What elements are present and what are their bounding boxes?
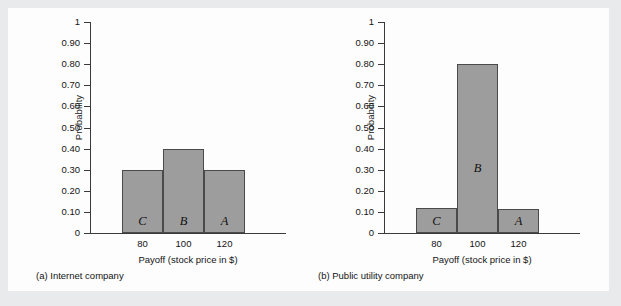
y-tick: 0.20 bbox=[378, 191, 384, 192]
y-tick-label: 0.10 bbox=[62, 206, 81, 217]
y-tick-label: 0.70 bbox=[62, 79, 81, 90]
bar-label: C bbox=[123, 214, 162, 229]
y-tick-label: 0.30 bbox=[62, 164, 81, 175]
bar: C bbox=[122, 170, 163, 233]
x-tick-label: 120 bbox=[499, 238, 539, 249]
bar-label: B bbox=[458, 161, 497, 176]
x-tick-label: 120 bbox=[205, 238, 245, 249]
y-tick-label: 0 bbox=[75, 227, 80, 238]
y-tick-label: 0.20 bbox=[356, 185, 375, 196]
bar: B bbox=[163, 149, 204, 233]
y-tick-label: 0.40 bbox=[62, 143, 81, 154]
y-tick-label: 0.20 bbox=[62, 185, 81, 196]
y-tick: 0.50 bbox=[378, 128, 384, 129]
bar-label: A bbox=[499, 214, 538, 229]
panel-caption-a: (a) Internet company bbox=[36, 270, 124, 281]
y-tick: 1 bbox=[378, 22, 384, 23]
y-tick-label: 0.80 bbox=[356, 58, 375, 69]
y-axis-label: Probability bbox=[73, 58, 84, 178]
chart-panel-internet-company: Probability 00.100.200.300.400.500.600.7… bbox=[16, 8, 316, 291]
x-axis-label: Payoff (stock price in $) bbox=[384, 254, 580, 265]
y-tick-label: 0.90 bbox=[356, 37, 375, 48]
y-tick: 1 bbox=[84, 22, 90, 23]
y-tick: 0.90 bbox=[378, 43, 384, 44]
y-tick: 0.40 bbox=[378, 149, 384, 150]
plot-area-a: 00.100.200.300.400.500.600.700.800.901 C… bbox=[90, 22, 286, 233]
y-tick-label: 0.90 bbox=[62, 37, 81, 48]
bar: B bbox=[457, 64, 498, 233]
y-tick-label: 0.60 bbox=[62, 100, 81, 111]
y-tick: 0.60 bbox=[378, 106, 384, 107]
y-tick-label: 1 bbox=[369, 16, 374, 27]
x-tick-label: 100 bbox=[458, 238, 498, 249]
y-tick: 0 bbox=[378, 233, 384, 234]
x-tick-label: 80 bbox=[123, 238, 163, 249]
bar: C bbox=[416, 208, 457, 233]
bar-label: B bbox=[164, 214, 203, 229]
y-tick-label: 0.50 bbox=[62, 122, 81, 133]
y-tick: 0.60 bbox=[84, 106, 90, 107]
x-axis-line bbox=[90, 233, 286, 234]
y-tick-label: 0.40 bbox=[356, 143, 375, 154]
x-axis-line bbox=[384, 233, 580, 234]
y-tick-label: 0.50 bbox=[356, 122, 375, 133]
panel-caption-b: (b) Public utility company bbox=[318, 270, 424, 281]
y-tick: 0.90 bbox=[84, 43, 90, 44]
y-tick-label: 0 bbox=[369, 227, 374, 238]
bar-label: C bbox=[417, 214, 456, 229]
y-tick: 0.30 bbox=[84, 170, 90, 171]
y-tick: 0.80 bbox=[378, 64, 384, 65]
y-tick-label: 0.30 bbox=[356, 164, 375, 175]
y-tick: 0.40 bbox=[84, 149, 90, 150]
y-tick: 0.80 bbox=[84, 64, 90, 65]
y-tick-label: 0.60 bbox=[356, 100, 375, 111]
y-axis-line bbox=[90, 22, 91, 234]
y-tick-label: 0.10 bbox=[356, 206, 375, 217]
y-tick: 0.10 bbox=[378, 212, 384, 213]
x-tick-label: 100 bbox=[164, 238, 204, 249]
plot-area-b: 00.100.200.300.400.500.600.700.800.901 C… bbox=[384, 22, 580, 233]
y-tick-label: 0.80 bbox=[62, 58, 81, 69]
figure-frame: Probability 00.100.200.300.400.500.600.7… bbox=[8, 8, 609, 291]
y-axis-line bbox=[384, 22, 385, 234]
x-axis-label: Payoff (stock price in $) bbox=[90, 254, 286, 265]
y-tick: 0 bbox=[84, 233, 90, 234]
y-axis-label: Probability bbox=[365, 58, 376, 178]
y-tick: 0.20 bbox=[84, 191, 90, 192]
y-tick: 0.10 bbox=[84, 212, 90, 213]
y-tick: 0.50 bbox=[84, 128, 90, 129]
y-tick-label: 1 bbox=[75, 16, 80, 27]
y-tick: 0.70 bbox=[84, 85, 90, 86]
bar: A bbox=[204, 170, 245, 233]
chart-panel-public-utility-company: Probability 00.100.200.300.400.500.600.7… bbox=[310, 8, 610, 291]
x-tick-label: 80 bbox=[417, 238, 457, 249]
bar-label: A bbox=[205, 214, 244, 229]
y-tick-label: 0.70 bbox=[356, 79, 375, 90]
bar: A bbox=[498, 209, 539, 233]
y-tick: 0.70 bbox=[378, 85, 384, 86]
y-tick: 0.30 bbox=[378, 170, 384, 171]
